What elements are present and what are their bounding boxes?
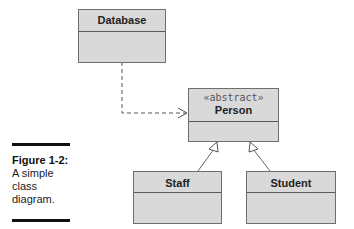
caption-top-rule bbox=[12, 143, 70, 146]
caption-title: Figure 1-2: bbox=[12, 154, 72, 167]
class-database[interactable]: Database bbox=[78, 9, 166, 63]
class-staff[interactable]: Staff bbox=[133, 171, 222, 224]
caption-line: A simple bbox=[12, 167, 72, 180]
inheritance-triangle-icon bbox=[209, 142, 218, 152]
inheritance-triangle-icon bbox=[249, 142, 258, 152]
class-name: Student bbox=[247, 172, 335, 193]
class-student[interactable]: Student bbox=[246, 171, 336, 224]
class-name-block: «abstract» Person bbox=[189, 89, 278, 122]
caption-bottom-rule bbox=[12, 219, 70, 222]
class-name: Person bbox=[215, 104, 252, 116]
dependency-line bbox=[122, 62, 186, 113]
class-person[interactable]: «abstract» Person bbox=[188, 88, 279, 142]
generalization-line-student bbox=[253, 149, 270, 171]
generalization-line-staff bbox=[198, 149, 214, 171]
class-name: Database bbox=[79, 10, 165, 32]
caption-line: diagram. bbox=[12, 193, 72, 206]
caption-line: class bbox=[12, 180, 72, 193]
figure-caption: Figure 1-2: A simple class diagram. bbox=[12, 143, 72, 222]
stereotype-label: «abstract» bbox=[189, 92, 278, 104]
class-name: Staff bbox=[134, 172, 221, 193]
